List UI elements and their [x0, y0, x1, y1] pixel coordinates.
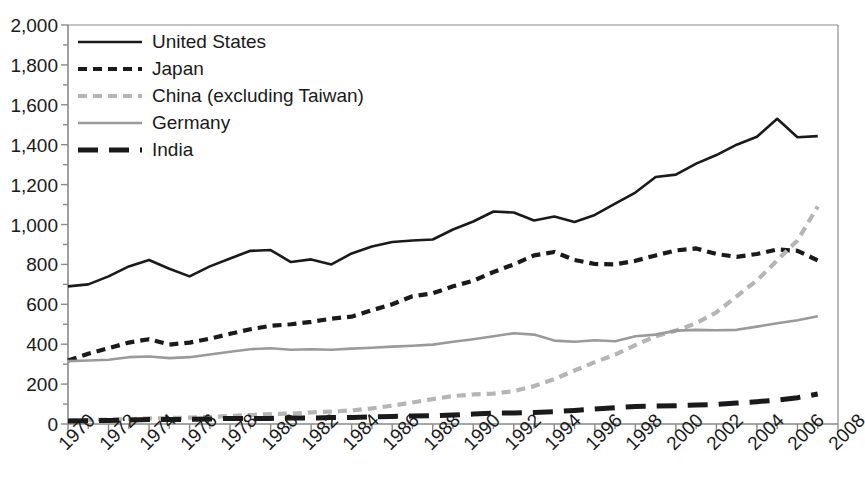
x-tick-label: 1998 — [622, 410, 665, 453]
legend-line-swatch-icon — [78, 143, 142, 157]
legend-item[interactable]: Germany — [78, 109, 408, 136]
x-tick-label: 1980 — [258, 410, 301, 453]
legend-line-swatch-icon — [78, 35, 142, 49]
legend-item[interactable]: Japan — [78, 55, 408, 82]
x-tick-label: 1992 — [501, 410, 544, 453]
x-tick-label: 1984 — [339, 410, 382, 453]
legend-item[interactable]: China (excluding Taiwan) — [78, 82, 408, 109]
legend-item-label: Japan — [152, 59, 204, 78]
x-tick-label: 2008 — [825, 410, 865, 453]
x-tick-label: 2006 — [784, 410, 827, 453]
x-tick-label: 2004 — [744, 410, 787, 453]
legend-line-swatch-icon — [78, 116, 142, 130]
x-tick-label: 2002 — [703, 410, 746, 453]
legend-item-label: India — [152, 140, 193, 159]
legend-item[interactable]: United States — [78, 28, 408, 55]
x-tick-label: 1976 — [177, 410, 220, 453]
x-tick-label: 1974 — [136, 410, 179, 453]
x-tick-label: 1990 — [460, 410, 503, 453]
x-tick-label: 1970 — [55, 410, 98, 453]
x-tick-label: 2000 — [663, 410, 706, 453]
legend-item-label: China (excluding Taiwan) — [152, 86, 364, 105]
legend-item-label: United States — [152, 32, 266, 51]
x-tick-label: 1994 — [541, 410, 584, 453]
legend-line-swatch-icon — [78, 89, 142, 103]
x-tick-label: 1982 — [298, 410, 341, 453]
x-tick-label: 1988 — [420, 410, 463, 453]
x-tick-label: 1978 — [217, 410, 260, 453]
x-tick-label: 1996 — [582, 410, 625, 453]
legend-item-label: Germany — [152, 113, 230, 132]
legend-item[interactable]: India — [78, 136, 408, 163]
chart-legend: United StatesJapanChina (excluding Taiwa… — [78, 28, 408, 163]
x-tick-label: 1972 — [96, 410, 139, 453]
x-tick-label: 1986 — [379, 410, 422, 453]
chart-container: 02004006008001,0001,2001,4001,6001,8002,… — [0, 0, 865, 495]
legend-line-swatch-icon — [78, 62, 142, 76]
